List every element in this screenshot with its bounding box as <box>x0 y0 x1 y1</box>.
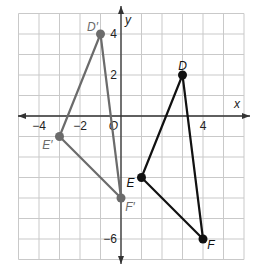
vertex-point <box>55 132 64 141</box>
vertex-label: F <box>207 238 215 252</box>
x-tick-label: −4 <box>32 119 46 133</box>
x-axis-left-arrow-icon <box>18 113 26 119</box>
grid <box>19 14 245 260</box>
axes: xy <box>18 6 250 264</box>
vertex-point <box>137 173 146 182</box>
x-axis-label: x <box>233 97 241 111</box>
y-tick-label: 2 <box>110 68 117 82</box>
y-axis-label: y <box>124 13 132 27</box>
x-tick-label: −2 <box>73 119 87 133</box>
y-axis-up-arrow-icon <box>118 6 124 14</box>
vertex-point <box>199 235 208 244</box>
vertex-label: D <box>178 59 187 73</box>
vertex-label: E′ <box>42 138 53 152</box>
vertex-label: F′ <box>125 200 135 214</box>
vertex-label: D′ <box>87 20 99 34</box>
y-tick-label: 4 <box>110 27 117 41</box>
coordinate-plane: xy −4−2442−6O DEFD′E′F′ <box>0 0 257 272</box>
vertex-point <box>117 194 126 203</box>
vertex-label: E <box>126 176 135 190</box>
x-axis-right-arrow-icon <box>242 113 250 119</box>
x-tick-label: 4 <box>200 119 207 133</box>
y-tick-label: −6 <box>103 232 117 246</box>
